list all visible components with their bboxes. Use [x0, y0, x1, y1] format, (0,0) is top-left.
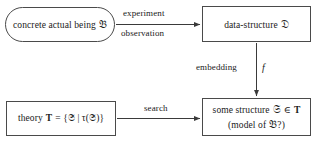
node-some-structure[interactable]: some structure𝔖∈T (model of𝔅?): [202, 98, 311, 136]
fraktur-s-symbol: 𝔖: [273, 103, 281, 115]
node-being-label: concrete actual being: [13, 20, 96, 30]
element-of-icon: ∈: [284, 105, 291, 115]
node-theory-label: theory: [18, 113, 43, 123]
node-concrete-actual-being-text: concrete actual being𝔅: [13, 17, 107, 32]
edge-label-observation: observation: [121, 29, 164, 39]
node-theory-text: theoryT= {𝔖 | τ(𝔖)}: [18, 112, 104, 125]
theory-symbol-t: T: [46, 113, 52, 123]
node-theory[interactable]: theoryT= {𝔖 | τ(𝔖)}: [6, 101, 116, 136]
some-structure-prefix: some structure: [213, 105, 270, 115]
edge-label-search: search: [144, 104, 168, 114]
diagram-canvas: concrete actual being𝔅 data-structure𝔇 t…: [0, 0, 316, 145]
edge-label-embedding: embedding: [196, 63, 237, 73]
edge-label-f-map: f: [262, 62, 265, 73]
theory-formula: = {𝔖 | τ(𝔖)}: [55, 113, 104, 123]
fraktur-b-symbol: 𝔅: [99, 18, 107, 30]
node-data-structure-text: data-structure𝔇: [224, 17, 289, 32]
structure-theory-symbol: T: [294, 105, 300, 115]
node-some-structure-line1: some structure𝔖∈T: [213, 102, 301, 117]
edge-label-experiment: experiment: [123, 9, 164, 19]
node-data-structure[interactable]: data-structure𝔇: [202, 6, 311, 42]
model-of-prefix: (model of: [228, 120, 266, 130]
node-concrete-actual-being[interactable]: concrete actual being𝔅: [5, 7, 115, 42]
model-of-suffix: ?): [277, 120, 285, 130]
fraktur-d-symbol: 𝔇: [281, 18, 289, 30]
node-data-structure-label: data-structure: [224, 20, 278, 30]
node-some-structure-line2: (model of𝔅?): [228, 117, 285, 132]
